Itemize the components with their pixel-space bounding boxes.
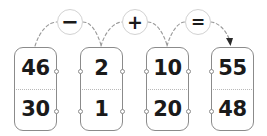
arc-card3-to-equals [167,22,185,46]
number-card-4[interactable]: 55 48 [211,47,254,131]
card-2-node-right-top[interactable] [120,69,125,74]
card-1-top-value: 46 [15,48,56,89]
card-2-node-right-bottom[interactable] [120,109,125,114]
equals-glyph: = [191,14,205,31]
card-1-node-right-top[interactable] [54,69,59,74]
card-4-bottom-value: 48 [212,89,253,130]
diagram-canvas: 46 30 2 1 10 20 55 48 − + [0,0,267,136]
card-3-divider [148,89,187,90]
operator-equals-icon[interactable]: = [185,9,211,35]
arc-card2-to-plus [101,22,122,46]
arc-plus-to-card3 [148,22,167,45]
card-1-node-right-bottom[interactable] [54,109,59,114]
arc-minus-to-card2 [83,22,101,45]
card-3-bottom-value: 20 [147,89,188,130]
card-2-divider [82,89,121,90]
card-4-top-value: 55 [212,48,253,89]
card-2-bottom-value: 1 [81,89,122,130]
card-2-node-left-bottom[interactable] [78,109,83,114]
arc-equals-to-card4 [211,22,230,41]
card-4-divider [213,89,252,90]
card-3-node-right-bottom[interactable] [186,109,191,114]
number-card-1[interactable]: 46 30 [14,47,57,131]
minus-glyph: − [61,12,79,33]
card-3-node-right-top[interactable] [186,69,191,74]
number-card-3[interactable]: 10 20 [146,47,189,131]
arc-card1-to-minus [35,22,57,46]
card-4-node-left-bottom[interactable] [209,109,214,114]
card-2-top-value: 2 [81,48,122,89]
number-card-2[interactable]: 2 1 [80,47,123,131]
card-3-top-value: 10 [147,48,188,89]
card-1-bottom-value: 30 [15,89,56,130]
card-3-node-left-top[interactable] [144,69,149,74]
card-2-node-left-top[interactable] [78,69,83,74]
card-4-node-left-top[interactable] [209,69,214,74]
card-3-node-left-bottom[interactable] [144,109,149,114]
card-1-divider [16,89,55,90]
operator-plus-icon[interactable]: + [122,9,148,35]
arrow-head [226,38,233,46]
operator-minus-icon[interactable]: − [57,9,83,35]
plus-glyph: + [127,13,143,32]
